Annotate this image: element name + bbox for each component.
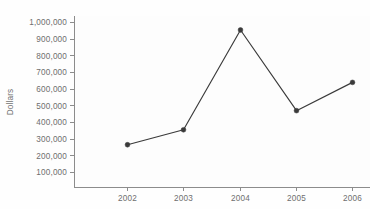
y-tick-label: 700,000: [36, 68, 67, 77]
line-chart-figure: 1,000,000 900,000 800,000 700,000 600,00…: [0, 0, 370, 209]
y-tick-label: 900,000: [36, 35, 67, 44]
y-axis-title: Dollars: [6, 89, 15, 116]
data-point: [181, 127, 186, 132]
y-tick-label: 200,000: [36, 152, 67, 161]
x-tick-label: 2002: [118, 194, 137, 203]
x-tick-label: 2004: [231, 194, 250, 203]
data-point: [350, 80, 355, 85]
data-point: [238, 28, 243, 33]
x-axis-tick-labels: 2002 2003 2004 2005 2006: [118, 194, 362, 203]
x-axis: 2002 2003 2004 2005 2006: [74, 187, 370, 203]
y-tick-label: 300,000: [36, 135, 67, 144]
y-tick-label: 600,000: [36, 85, 67, 94]
y-tick-label: 1,000,000: [29, 18, 67, 27]
y-tick-label: 800,000: [36, 52, 67, 61]
data-point: [125, 142, 130, 147]
x-tick-label: 2006: [343, 194, 362, 203]
x-tick-label: 2003: [174, 194, 193, 203]
y-tick-label: 500,000: [36, 102, 67, 111]
y-axis: 1,000,000 900,000 800,000 700,000 600,00…: [6, 16, 75, 187]
plot-area-background: [74, 16, 370, 187]
data-point: [294, 108, 299, 113]
y-tick-label: 100,000: [36, 168, 67, 177]
y-axis-tick-labels: 1,000,000 900,000 800,000 700,000 600,00…: [29, 18, 67, 177]
chart-canvas: 1,000,000 900,000 800,000 700,000 600,00…: [0, 0, 370, 209]
x-tick-label: 2005: [287, 194, 306, 203]
y-axis-ticks: [70, 23, 74, 173]
y-tick-label: 400,000: [36, 118, 67, 127]
